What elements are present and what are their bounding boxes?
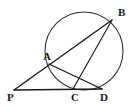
- chord-c-b: [73, 20, 112, 89]
- vertex-label-a: A: [43, 50, 51, 62]
- secant-p-a-b: [14, 20, 112, 90]
- geometry-canvas: A B C D P: [0, 0, 136, 107]
- vertex-label-c: C: [71, 91, 79, 103]
- vertex-label-p: P: [7, 91, 14, 103]
- vertex-label-d: D: [100, 91, 108, 103]
- vertex-label-b: B: [118, 6, 126, 18]
- geometry-figure: A B C D P: [0, 0, 136, 107]
- main-circle: [45, 12, 123, 90]
